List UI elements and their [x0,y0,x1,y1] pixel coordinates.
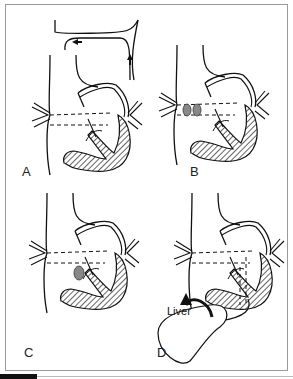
panel-a-drawing [32,20,142,175]
panel-c-drawing [29,193,139,313]
diagram-canvas [0,0,293,379]
panel-b-drawing [159,45,269,165]
panel-label-c: C [24,345,33,360]
panel-label-d: D [157,345,166,360]
panel-label-b: B [190,164,199,179]
panel-label-a: A [22,164,31,179]
liver-label: Liver [167,305,191,317]
panel-d-drawing [158,193,284,363]
